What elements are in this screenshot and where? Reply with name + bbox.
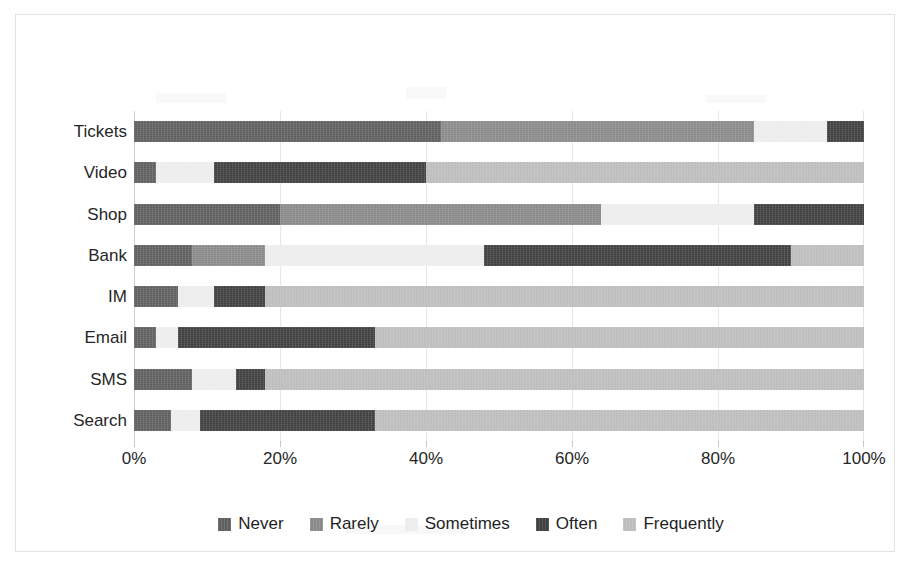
y-axis-labels: TicketsVideoShopBankIMEmailSMSSearch	[31, 111, 127, 441]
bar-row-search	[134, 400, 864, 441]
bar-segment-shop-sometimes[interactable]	[601, 204, 754, 225]
stacked-bar-shop[interactable]	[134, 204, 864, 225]
y-axis-label-video: Video	[31, 152, 127, 193]
bar-segment-sms-often[interactable]	[236, 369, 265, 390]
bar-segment-bank-never[interactable]	[134, 245, 192, 266]
bar-segment-bank-frequently[interactable]	[791, 245, 864, 266]
y-axis-label-im: IM	[31, 276, 127, 317]
stacked-bar-im[interactable]	[134, 286, 864, 307]
y-axis-label-tickets: Tickets	[31, 111, 127, 152]
bar-segment-im-often[interactable]	[214, 286, 265, 307]
x-axis-label-60pct: 60%	[555, 449, 589, 469]
bar-segment-email-often[interactable]	[178, 327, 375, 348]
legend-label-frequently: Frequently	[643, 514, 723, 534]
chart-frame: TicketsVideoShopBankIMEmailSMSSearch 0%2…	[15, 14, 895, 552]
bar-row-sms	[134, 359, 864, 400]
plot-area	[134, 111, 864, 441]
stacked-bar-video[interactable]	[134, 162, 864, 183]
x-tick-80pct	[718, 441, 719, 447]
bar-row-video	[134, 152, 864, 193]
legend-label-often: Often	[556, 514, 598, 534]
legend-swatch-never-icon	[218, 518, 231, 531]
x-axis-label-40pct: 40%	[409, 449, 443, 469]
scan-artifact	[156, 93, 226, 103]
bar-segment-sms-sometimes[interactable]	[192, 369, 236, 390]
legend-item-sometimes[interactable]: Sometimes	[405, 514, 510, 534]
bar-segment-search-sometimes[interactable]	[171, 410, 200, 431]
bar-segment-tickets-never[interactable]	[134, 121, 441, 142]
x-tick-100pct	[863, 441, 864, 447]
bar-segment-shop-rarely[interactable]	[280, 204, 601, 225]
y-axis-label-email: Email	[31, 317, 127, 358]
stacked-bar-tickets[interactable]	[134, 121, 864, 142]
x-tick-40pct	[426, 441, 427, 447]
bar-row-bank	[134, 235, 864, 276]
bar-segment-video-often[interactable]	[214, 162, 426, 183]
bar-segment-bank-sometimes[interactable]	[265, 245, 484, 266]
bar-segment-email-never[interactable]	[134, 327, 156, 348]
bar-segment-im-sometimes[interactable]	[178, 286, 215, 307]
chart-legend: NeverRarelySometimesOftenFrequently	[31, 507, 911, 541]
legend-swatch-frequently-icon	[623, 518, 636, 531]
y-axis-label-shop: Shop	[31, 194, 127, 235]
bar-row-tickets	[134, 111, 864, 152]
bar-segment-video-sometimes[interactable]	[156, 162, 214, 183]
y-axis-label-bank: Bank	[31, 235, 127, 276]
bar-row-shop	[134, 194, 864, 235]
bar-series-group	[134, 111, 864, 441]
x-axis-label-0pct: 0%	[122, 449, 147, 469]
x-axis-labels: 0%20%40%60%80%100%	[134, 449, 864, 477]
x-tick-20pct	[280, 441, 281, 447]
bar-row-im	[134, 276, 864, 317]
bar-segment-bank-often[interactable]	[484, 245, 791, 266]
x-axis-label-20pct: 20%	[263, 449, 297, 469]
chart-figure: TicketsVideoShopBankIMEmailSMSSearch 0%2…	[0, 0, 912, 570]
stacked-bar-email[interactable]	[134, 327, 864, 348]
bar-segment-search-frequently[interactable]	[375, 410, 864, 431]
legend-label-never: Never	[238, 514, 283, 534]
bar-segment-search-never[interactable]	[134, 410, 171, 431]
bar-segment-bank-rarely[interactable]	[192, 245, 265, 266]
scan-artifact	[406, 87, 446, 99]
scan-artifact	[706, 95, 766, 103]
stacked-bar-sms[interactable]	[134, 369, 864, 390]
y-axis-label-sms: SMS	[31, 359, 127, 400]
bar-segment-video-frequently[interactable]	[426, 162, 864, 183]
stacked-bar-bank[interactable]	[134, 245, 864, 266]
bar-segment-email-frequently[interactable]	[375, 327, 864, 348]
legend-item-never[interactable]: Never	[218, 514, 283, 534]
bar-segment-email-sometimes[interactable]	[156, 327, 178, 348]
bar-segment-sms-frequently[interactable]	[265, 369, 864, 390]
legend-item-often[interactable]: Often	[536, 514, 598, 534]
bar-segment-tickets-sometimes[interactable]	[754, 121, 827, 142]
legend-swatch-rarely-icon	[310, 518, 323, 531]
bar-segment-sms-never[interactable]	[134, 369, 192, 390]
bar-row-email	[134, 317, 864, 358]
bar-segment-shop-never[interactable]	[134, 204, 280, 225]
bar-segment-im-frequently[interactable]	[265, 286, 864, 307]
x-tick-60pct	[572, 441, 573, 447]
bar-segment-search-often[interactable]	[200, 410, 375, 431]
legend-item-frequently[interactable]: Frequently	[623, 514, 723, 534]
bar-segment-tickets-often[interactable]	[827, 121, 864, 142]
bar-segment-shop-often[interactable]	[754, 204, 864, 225]
y-axis-label-search: Search	[31, 400, 127, 441]
legend-swatch-sometimes-icon	[405, 518, 418, 531]
legend-label-rarely: Rarely	[330, 514, 379, 534]
legend-label-sometimes: Sometimes	[425, 514, 510, 534]
x-tick-0pct	[134, 441, 135, 447]
x-axis-label-100pct: 100%	[842, 449, 885, 469]
stacked-bar-search[interactable]	[134, 410, 864, 431]
bar-segment-tickets-rarely[interactable]	[441, 121, 755, 142]
bar-segment-im-never[interactable]	[134, 286, 178, 307]
x-axis-label-80pct: 80%	[701, 449, 735, 469]
legend-swatch-often-icon	[536, 518, 549, 531]
legend-item-rarely[interactable]: Rarely	[310, 514, 379, 534]
bar-segment-video-never[interactable]	[134, 162, 156, 183]
